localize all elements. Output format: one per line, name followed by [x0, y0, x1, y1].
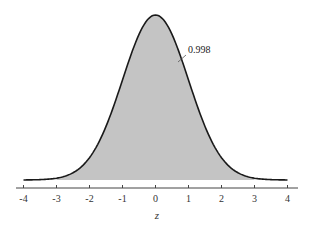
x-tick-label: 4: [285, 193, 290, 204]
x-tick-label: 0: [153, 193, 158, 204]
x-tick-label: -2: [85, 193, 93, 204]
x-tick-label: 2: [219, 193, 224, 204]
shaded-area: [57, 15, 255, 180]
x-tick-label: 1: [186, 193, 191, 204]
x-tick-label: 3: [252, 193, 257, 204]
x-axis-label: z: [154, 209, 160, 221]
x-tick-label: -1: [118, 193, 126, 204]
x-tick-label: -3: [52, 193, 60, 204]
area-annotation: 0.998: [188, 44, 211, 55]
x-tick-label: -4: [19, 193, 27, 204]
normal-curve-chart: -4-3-2-101234 0.998 z: [0, 0, 314, 234]
